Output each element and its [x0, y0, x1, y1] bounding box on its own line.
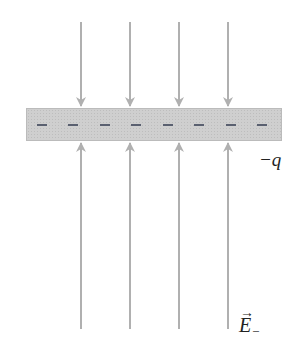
negative-charge: [37, 124, 47, 126]
bottom-field-arrows: [76, 142, 233, 329]
negative-charge: [257, 124, 267, 126]
field-diagram: −q → E−: [0, 0, 293, 349]
field-subscript: −: [251, 324, 260, 339]
negative-charge: [131, 124, 141, 126]
plate-charge-label: −q: [259, 149, 281, 171]
negative-charge: [100, 124, 110, 126]
field-lines: [0, 0, 293, 349]
field-label: → E−: [239, 314, 260, 337]
negative-charge: [226, 124, 236, 126]
top-field-arrows: [76, 22, 233, 107]
charged-plate: [26, 108, 282, 141]
negative-charge: [163, 124, 173, 126]
negative-charge: [194, 124, 204, 126]
vector-arrow-icon: →: [240, 305, 254, 321]
negative-charge: [68, 124, 78, 126]
